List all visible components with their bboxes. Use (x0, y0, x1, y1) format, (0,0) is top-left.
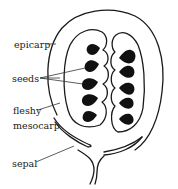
label-seeds: seeds (12, 74, 39, 84)
label-sepal: sepal (12, 159, 37, 169)
seeds-right (119, 50, 135, 125)
label-fleshy: fleshy (13, 106, 41, 116)
seeds-left (82, 44, 100, 122)
leader-lines (36, 44, 85, 162)
sepals-stalk (54, 118, 142, 184)
label-epicarp: epicarp (14, 40, 50, 50)
epicarp-outline (48, 10, 163, 150)
label-mesocarp: mesocarp (13, 121, 60, 131)
berry-diagram: epicarp seeds fleshy mesocarp sepal (0, 0, 178, 189)
